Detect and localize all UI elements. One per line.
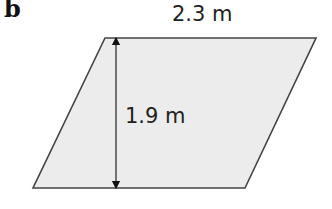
height-dimension-label: 1.9 m [125, 106, 186, 127]
base-dimension-label: 2.3 m [172, 4, 233, 25]
